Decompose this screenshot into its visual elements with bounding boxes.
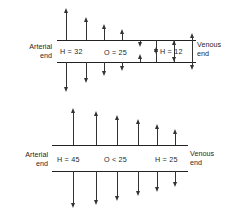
arrow-head-icon (71, 108, 75, 113)
arterial-end-line1: Arterial (29, 42, 52, 51)
arrow-reabsorption (156, 51, 157, 62)
arrow-head-icon (64, 87, 68, 92)
venous-end-line1: Venous (197, 40, 221, 49)
arrow-head-icon (120, 66, 124, 71)
arrow-filtration (117, 171, 118, 197)
arrow-filtration (138, 123, 139, 145)
arrow-filtration (122, 33, 123, 40)
arterial-end-label: Arterial end (0, 42, 52, 60)
arrow-filtration (73, 112, 74, 145)
arrow-filtration (104, 28, 105, 40)
arrow-head-icon (115, 115, 119, 120)
arrow-filtration (175, 171, 176, 183)
arrow-filtration (96, 171, 97, 201)
arrow-filtration (175, 133, 176, 145)
arrow-head-icon (138, 54, 142, 59)
arrow-head-icon (172, 40, 176, 45)
arrow-head-icon (84, 17, 88, 22)
arrow-filtration (86, 62, 87, 79)
arrow-head-icon (94, 111, 98, 116)
venous-end-line1: Venous (190, 149, 214, 158)
arrow-head-icon (84, 78, 88, 83)
arrow-head-icon (155, 124, 159, 129)
arrow-head-icon (138, 42, 142, 47)
venous-hydrostatic-pressure-label: H = 12 (160, 47, 183, 56)
arrow-filtration (66, 62, 67, 88)
arrow-filtration (117, 119, 118, 145)
venous-hydrostatic-pressure-label: H = 25 (155, 155, 178, 164)
arrow-reabsorption (140, 58, 141, 62)
venous-end-line2: end (197, 49, 234, 58)
arrow-head-icon (94, 200, 98, 205)
arrow-head-icon (173, 129, 177, 134)
oncotic-pressure-label: O < 25 (104, 155, 127, 164)
arrow-filtration (157, 171, 158, 188)
arrow-filtration (104, 62, 105, 72)
arrow-filtration (96, 115, 97, 145)
oncotic-pressure-label: O = 25 (104, 48, 127, 57)
arrow-head-icon (115, 196, 119, 201)
venous-end-label: Venous end (190, 149, 232, 167)
panel-edema-capillary-exchange: Arterial end Venous end H = 45 O < 25 H … (0, 105, 234, 213)
venous-end-line2: end (190, 158, 232, 167)
arrow-head-icon (102, 71, 106, 76)
arrow-filtration (66, 12, 67, 40)
arrow-head-icon (155, 187, 159, 192)
arrow-head-icon (190, 65, 194, 70)
arrow-head-icon (64, 8, 68, 13)
arrow-head-icon (173, 182, 177, 187)
arrow-head-icon (136, 119, 140, 124)
arterial-hydrostatic-pressure-label: H = 32 (60, 47, 83, 56)
arrow-head-icon (190, 33, 194, 38)
capillary-exchange-figure: Arterial end Venous end H = 32 O = 25 H … (0, 0, 234, 213)
arrow-head-icon (102, 24, 106, 29)
arterial-end-line1: Arterial (25, 150, 48, 159)
arrow-head-icon (154, 47, 158, 52)
arrow-head-icon (136, 191, 140, 196)
arrow-filtration (86, 21, 87, 40)
arrow-filtration (157, 128, 158, 145)
arterial-end-line2: end (0, 159, 48, 168)
arrow-head-icon (120, 29, 124, 34)
arrow-head-icon (71, 203, 75, 208)
arterial-hydrostatic-pressure-label: H = 45 (57, 155, 80, 164)
arrow-filtration (122, 62, 123, 67)
arrow-filtration (73, 171, 74, 204)
bottom-panel-upper-axis-line (52, 145, 188, 146)
top-panel-lower-axis-line (57, 62, 196, 63)
panel-normal-capillary-exchange: Arterial end Venous end H = 32 O = 25 H … (0, 0, 234, 100)
arterial-end-line2: end (0, 51, 52, 60)
arrow-filtration (138, 171, 139, 192)
arrow-reabsorption (140, 40, 141, 43)
arterial-end-label: Arterial end (0, 150, 48, 168)
venous-end-label: Venous end (197, 40, 234, 58)
arrow-reabsorption (192, 37, 193, 62)
